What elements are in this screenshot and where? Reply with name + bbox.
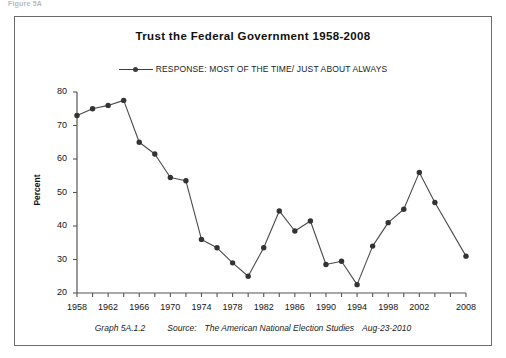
y-tick-label-70: 70 xyxy=(45,120,67,130)
figure-frame: Trust the Federal Government 1958-2008 R… xyxy=(14,16,492,346)
data-point-1980 xyxy=(245,274,250,279)
x-tick-label-1970: 1970 xyxy=(153,302,187,312)
data-point-1972 xyxy=(183,178,188,183)
plot-area: Percent 20304050607080195819621966197019… xyxy=(15,17,493,347)
data-point-1958 xyxy=(74,113,79,118)
x-tick-label-1966: 1966 xyxy=(122,302,156,312)
data-point-1978 xyxy=(230,260,235,265)
y-tick-label-50: 50 xyxy=(45,187,67,197)
data-point-1960 xyxy=(90,106,95,111)
footer-graph-id: Graph 5A.1.2 xyxy=(95,323,146,333)
data-point-2000 xyxy=(401,207,406,212)
x-tick-label-1994: 1994 xyxy=(340,302,374,312)
data-point-1994 xyxy=(354,282,359,287)
data-point-2002 xyxy=(417,170,422,175)
y-tick-label-80: 80 xyxy=(45,86,67,96)
data-point-1970 xyxy=(168,175,173,180)
footer-source-label: Source: xyxy=(167,323,196,333)
data-point-1990 xyxy=(323,262,328,267)
footer-source-name: The American National Election Studies xyxy=(205,323,354,333)
scan-top-cut-text: Figure 5A xyxy=(8,0,208,8)
x-tick-label-2008: 2008 xyxy=(449,302,483,312)
x-tick-label-1990: 1990 xyxy=(309,302,343,312)
data-point-1986 xyxy=(292,228,297,233)
data-point-1984 xyxy=(277,208,282,213)
x-tick-label-2002: 2002 xyxy=(402,302,436,312)
data-point-1964 xyxy=(121,98,126,103)
x-tick-label-1982: 1982 xyxy=(247,302,281,312)
y-tick-label-40: 40 xyxy=(45,220,67,230)
y-tick-label-60: 60 xyxy=(45,153,67,163)
data-point-1996 xyxy=(370,243,375,248)
data-point-1988 xyxy=(308,218,313,223)
data-point-1966 xyxy=(137,140,142,145)
data-point-2008 xyxy=(463,253,468,258)
plot-svg xyxy=(15,17,493,347)
x-tick-label-1974: 1974 xyxy=(184,302,218,312)
x-tick-label-1998: 1998 xyxy=(371,302,405,312)
data-point-1976 xyxy=(214,245,219,250)
chart-footer: Graph 5A.1.2 Source: The American Nation… xyxy=(15,323,491,333)
data-point-1992 xyxy=(339,258,344,263)
data-point-1968 xyxy=(152,151,157,156)
x-tick-label-1962: 1962 xyxy=(91,302,125,312)
data-point-1962 xyxy=(105,103,110,108)
x-tick-label-1978: 1978 xyxy=(216,302,250,312)
data-point-2004 xyxy=(432,200,437,205)
x-tick-label-1986: 1986 xyxy=(278,302,312,312)
data-point-1974 xyxy=(199,237,204,242)
data-point-1998 xyxy=(386,220,391,225)
data-point-1982 xyxy=(261,245,266,250)
x-tick-label-1958: 1958 xyxy=(60,302,94,312)
footer-date: Aug-23-2010 xyxy=(362,323,411,333)
y-tick-label-20: 20 xyxy=(45,287,67,297)
y-tick-label-30: 30 xyxy=(45,254,67,264)
